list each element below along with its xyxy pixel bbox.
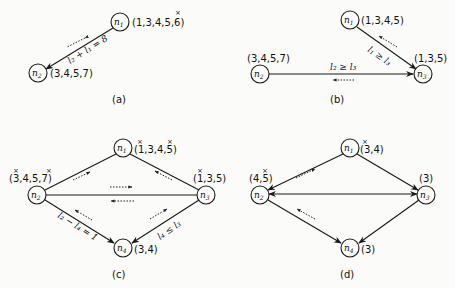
- edge-label-23: l₂ ≥ l₃: [330, 62, 357, 72]
- flow-arrow-dotted: [296, 169, 315, 178]
- node-n1: n1: [111, 13, 129, 31]
- node-n3-set: (3): [419, 173, 433, 184]
- node-n2: n2: [251, 186, 269, 204]
- panel-d: n1 (3,4) × n2 (4,5) × n3 (3) n4 (3) (d): [249, 138, 435, 280]
- flow-arrow-dotted: [379, 36, 397, 47]
- cross-mark: ×: [137, 138, 143, 146]
- caption-c: (c): [112, 269, 125, 280]
- node-n4: n4: [114, 239, 132, 257]
- edge-label-24: l₂ − l₄ = 1: [56, 210, 100, 242]
- edge-label-34: l₄ ≤ l₃: [155, 218, 183, 241]
- node-n2: n2: [251, 65, 269, 83]
- edge-n2-n1: [45, 154, 116, 190]
- panel-a: l₂ + l₁ = 8 n1 (1,3,4,5,6) × n2 (3,4,5,7…: [29, 9, 184, 105]
- cross-mark: ×: [46, 167, 52, 175]
- caption-d: (d): [340, 269, 354, 280]
- node-n1-set: (1,3,4,5): [361, 15, 404, 26]
- caption-a: (a): [112, 94, 126, 105]
- flow-arrow-dotted: [67, 38, 85, 47]
- cross-mark: ×: [175, 9, 181, 17]
- node-n3-set: (1,3,5): [414, 53, 447, 64]
- node-n1: n1: [341, 139, 359, 157]
- node-n2-set: (4,5): [249, 173, 273, 184]
- panel-c: l₂ − l₄ = 1 l₄ ≤ l₃ n1 (1,3,4,5) × × n2 …: [9, 138, 226, 280]
- edge-label-13: l₁ ≥ l₃: [366, 44, 394, 67]
- node-n1: n1: [341, 11, 359, 29]
- node-n1: n1: [114, 139, 132, 157]
- node-n3: n3: [417, 186, 435, 204]
- edge-label: l₂ + l₁ = 8: [66, 33, 110, 66]
- node-n3: n3: [414, 65, 432, 83]
- edge-n1-n3: [130, 154, 199, 190]
- node-n2: n2: [29, 64, 47, 82]
- node-n2-set: (3,4,5,7): [50, 68, 93, 79]
- flow-arrow-dotted: [155, 171, 172, 180]
- flow-arrow-dotted: [73, 172, 90, 180]
- flow-arrow-dotted: [150, 209, 167, 219]
- cross-mark: ×: [13, 167, 19, 175]
- edge-n1-n2: [268, 154, 343, 190]
- node-n4-set: (3,4): [134, 244, 158, 255]
- flow-arrow-dotted: [75, 210, 92, 220]
- edge-n3-n4: [359, 200, 419, 243]
- edge-n1-n3: [357, 154, 418, 190]
- cross-mark: ×: [197, 167, 203, 175]
- node-n3: n3: [197, 186, 215, 204]
- node-n4: n4: [341, 239, 359, 257]
- flow-arrow-dotted: [297, 209, 315, 219]
- panel-b: l₁ ≥ l₃ l₂ ≥ l₃ n1 (1,3,4,5) n2 (3,4,5,7…: [247, 11, 447, 105]
- caption-b: (b): [330, 94, 344, 105]
- diagram-canvas: l₂ + l₁ = 8 n1 (1,3,4,5,6) × n2 (3,4,5,7…: [0, 0, 455, 288]
- cross-mark: ×: [167, 138, 173, 146]
- node-n1-set: (1,3,4,5,6): [132, 17, 184, 28]
- edge-n2-n4: [268, 200, 341, 243]
- node-n2-set: (3,4,5,7): [247, 53, 290, 64]
- node-n2: n2: [28, 186, 46, 204]
- node-n4-set: (3): [361, 244, 375, 255]
- cross-mark: ×: [362, 138, 368, 146]
- cross-mark: ×: [262, 167, 268, 175]
